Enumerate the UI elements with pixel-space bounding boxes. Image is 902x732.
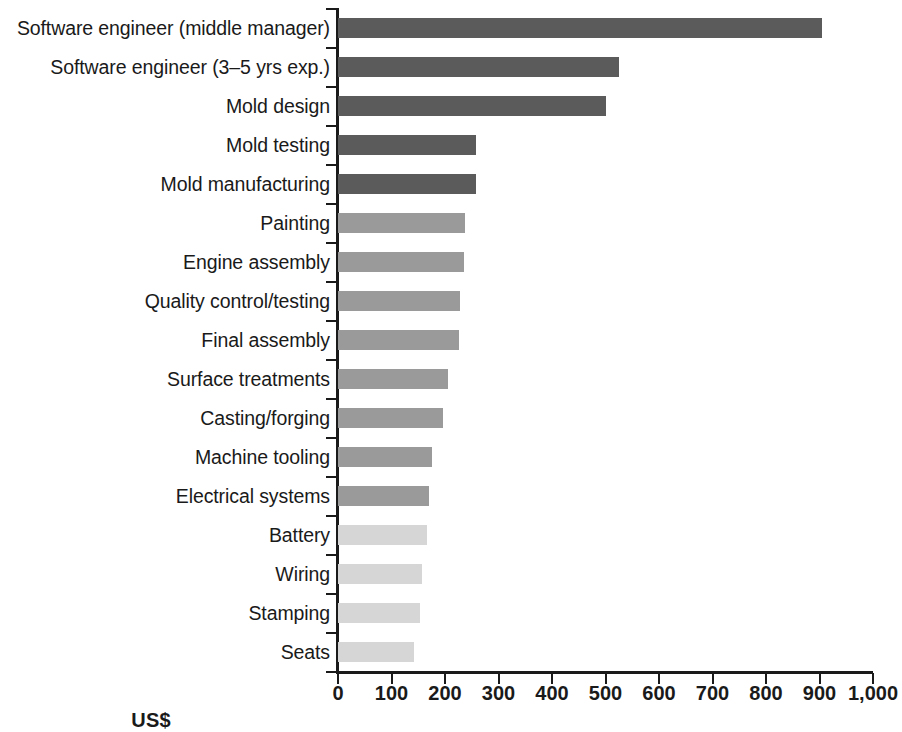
- bar-row: Painting: [0, 203, 902, 242]
- bar: [338, 57, 619, 77]
- x-axis-tick-label: 200: [428, 682, 461, 705]
- bar: [338, 135, 476, 155]
- plot-area: Software engineer (middle manager)Softwa…: [0, 0, 902, 672]
- x-axis-tick-label: 400: [535, 682, 568, 705]
- category-label: Final assembly: [201, 328, 330, 351]
- bar-row: Quality control/testing: [0, 281, 902, 320]
- category-label: Electrical systems: [176, 484, 330, 507]
- bar: [338, 96, 606, 116]
- x-axis-title: US$: [0, 709, 902, 732]
- x-axis-tick-labels: 01002003004005006007008009001,000: [0, 682, 902, 712]
- bar-row: Final assembly: [0, 320, 902, 359]
- bar: [338, 330, 459, 350]
- category-label: Machine tooling: [195, 445, 330, 468]
- x-axis-tick-label: 300: [482, 682, 515, 705]
- category-label: Software engineer (middle manager): [17, 16, 330, 39]
- y-axis-tick: [326, 203, 337, 205]
- bar: [338, 447, 432, 467]
- bar-row: Software engineer (middle manager): [0, 8, 902, 47]
- bar: [338, 369, 448, 389]
- category-label: Mold testing: [226, 133, 330, 156]
- bar-rows: Software engineer (middle manager)Softwa…: [0, 8, 902, 671]
- category-label: Software engineer (3–5 yrs exp.): [50, 55, 330, 78]
- category-label: Painting: [260, 211, 330, 234]
- bar: [338, 18, 822, 38]
- y-axis-tick: [326, 281, 337, 283]
- bar: [338, 291, 460, 311]
- bar-row: Mold testing: [0, 125, 902, 164]
- category-label: Seats: [281, 640, 330, 663]
- category-label: Stamping: [248, 601, 330, 624]
- x-axis-tick-label: 100: [375, 682, 408, 705]
- y-axis-tick: [326, 632, 337, 634]
- bar-row: Wiring: [0, 554, 902, 593]
- bar: [338, 174, 476, 194]
- y-axis-tick: [326, 476, 337, 478]
- bar: [338, 603, 420, 623]
- y-axis-tick: [326, 8, 337, 10]
- x-axis-tick-label: 1,000: [848, 682, 898, 705]
- y-axis-tick: [326, 320, 337, 322]
- bar-row: Seats: [0, 632, 902, 671]
- x-axis-tick-label: 900: [803, 682, 836, 705]
- x-axis-tick-label: 500: [589, 682, 622, 705]
- bar-row: Stamping: [0, 593, 902, 632]
- bar-row: Mold manufacturing: [0, 164, 902, 203]
- y-axis-tick: [326, 164, 337, 166]
- bar-row: Casting/forging: [0, 398, 902, 437]
- y-axis-tick: [326, 398, 337, 400]
- category-label: Mold manufacturing: [161, 172, 330, 195]
- category-label: Quality control/testing: [145, 289, 330, 312]
- category-label: Engine assembly: [183, 250, 330, 273]
- x-axis-tick-label: 700: [696, 682, 729, 705]
- category-label: Mold design: [226, 94, 330, 117]
- y-axis-tick: [326, 554, 337, 556]
- x-axis-tick-label: 800: [749, 682, 782, 705]
- category-label: Battery: [269, 523, 330, 546]
- x-axis-title-text: US$: [131, 709, 171, 731]
- x-axis-tick-label: 600: [642, 682, 675, 705]
- bar-row: Electrical systems: [0, 476, 902, 515]
- bar-row: Surface treatments: [0, 359, 902, 398]
- bar-row: Mold design: [0, 86, 902, 125]
- bar: [338, 642, 414, 662]
- y-axis-tick: [326, 437, 337, 439]
- bar-row: Machine tooling: [0, 437, 902, 476]
- x-axis-tick-label: 0: [332, 682, 343, 705]
- bar-chart: Software engineer (middle manager)Softwa…: [0, 0, 902, 732]
- bar: [338, 213, 465, 233]
- y-axis-tick: [326, 593, 337, 595]
- y-axis-tick: [326, 125, 337, 127]
- bar-row: Software engineer (3–5 yrs exp.): [0, 47, 902, 86]
- bar: [338, 486, 429, 506]
- category-label: Wiring: [275, 562, 330, 585]
- bar: [338, 252, 464, 272]
- y-axis-tick: [326, 515, 337, 517]
- bar: [338, 564, 422, 584]
- bar-row: Engine assembly: [0, 242, 902, 281]
- y-axis-tick: [326, 359, 337, 361]
- y-axis-tick: [326, 242, 337, 244]
- category-label: Casting/forging: [200, 406, 330, 429]
- y-axis-tick: [326, 47, 337, 49]
- y-axis-tick: [326, 86, 337, 88]
- category-label: Surface treatments: [167, 367, 330, 390]
- bar-row: Battery: [0, 515, 902, 554]
- bar: [338, 525, 427, 545]
- bar: [338, 408, 443, 428]
